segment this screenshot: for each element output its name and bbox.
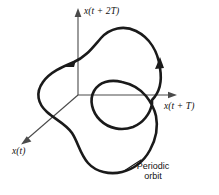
depth-axis-label: x(t) bbox=[12, 146, 26, 156]
axes-group bbox=[21, 8, 177, 145]
orbit-path bbox=[38, 28, 160, 173]
figure-canvas bbox=[0, 0, 219, 195]
flow-arrow-right-icon bbox=[155, 57, 164, 69]
horizontal-axis-label: x(t + T) bbox=[164, 101, 194, 111]
periodic-orbit-caption: Periodic orbit bbox=[127, 161, 179, 182]
vertical-axis-label: x(t + 2T) bbox=[84, 6, 119, 16]
arrow-right-icon bbox=[168, 92, 177, 99]
periodic-orbit-figure: x(t + 2T) x(t + T) x(t) Periodic orbit bbox=[0, 0, 219, 195]
arrow-up-icon bbox=[75, 8, 82, 17]
arrow-down-left-icon bbox=[21, 136, 31, 144]
periodic-orbit-caption-line1: Periodic bbox=[127, 161, 179, 171]
periodic-orbit-caption-line2: orbit bbox=[127, 171, 179, 181]
periodic-orbit-trajectory bbox=[38, 28, 160, 173]
vertical-axis bbox=[75, 8, 82, 95]
depth-axis bbox=[21, 95, 78, 145]
